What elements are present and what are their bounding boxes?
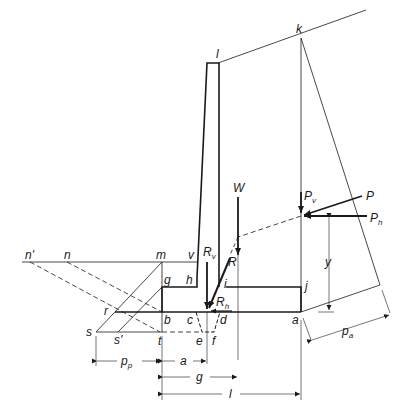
- label-point-n-prime: n': [25, 248, 35, 262]
- label-force-ph: Ph: [370, 211, 383, 227]
- label-dimension-a: a: [180, 354, 187, 368]
- label-point-t: t: [158, 334, 162, 348]
- label-point-f: f: [212, 334, 217, 348]
- label-point-s: s: [86, 325, 92, 339]
- label-point-g: g: [164, 273, 171, 287]
- label-point-h: h: [186, 273, 193, 287]
- label-point-a: a: [292, 313, 299, 327]
- heel-outline: [226, 287, 301, 312]
- label-point-e: e: [196, 334, 203, 348]
- label-point-n: n: [64, 248, 71, 262]
- label-point-r: r: [104, 304, 109, 318]
- resultant-line-dashed: [230, 216, 301, 255]
- label-point-s-prime: s': [114, 333, 123, 347]
- label-force-pv: Pv: [304, 189, 317, 205]
- retaining-wall-diagram: l k v m n n' g h i j r b c d a s s' t e …: [0, 0, 409, 415]
- active-pressure-diagram: [301, 38, 380, 312]
- passive-pressure-lines: [30, 262, 162, 332]
- label-point-m: m: [156, 248, 166, 262]
- label-point-v: v: [188, 248, 195, 262]
- label-dimension-pp: pp: [120, 354, 133, 370]
- label-dimension-pa: pa: [341, 324, 354, 340]
- label-dimension-l: l: [229, 387, 232, 401]
- label-force-w: W: [233, 181, 246, 195]
- label-dimension-y: y: [324, 255, 332, 269]
- label-point-j: j: [303, 279, 308, 293]
- backfill-surface-line: [218, 10, 366, 63]
- label-point-c: c: [187, 313, 193, 327]
- label-force-r: R: [228, 255, 237, 269]
- label-point-k: k: [296, 22, 303, 36]
- label-force-rh: Rh: [216, 295, 230, 311]
- label-force-p: P: [366, 189, 374, 203]
- label-point-b: b: [164, 313, 171, 327]
- label-point-d: d: [220, 313, 227, 327]
- label-dimension-g: g: [196, 370, 203, 384]
- label-point-l: l: [216, 47, 219, 61]
- label-point-i: i: [224, 277, 227, 291]
- label-force-rv: Rv: [203, 245, 217, 261]
